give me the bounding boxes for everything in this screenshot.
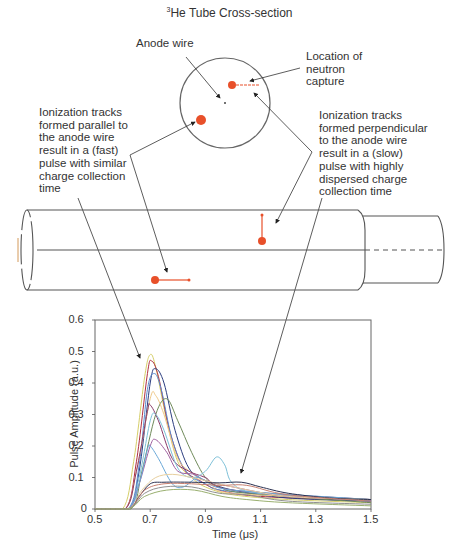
pulse-curves [95, 354, 371, 509]
tube [21, 210, 446, 290]
x-axis-label: Time (μs) [212, 528, 258, 540]
tube-tracks [151, 214, 266, 285]
y-tick-label: 0 [81, 502, 87, 514]
x-tick-label: 0.5 [87, 513, 102, 525]
parallel-arrow-tube [130, 155, 167, 272]
x-tick-label: 1.5 [363, 513, 378, 525]
cross-section [180, 58, 270, 148]
fast-pulse-arrow [78, 198, 140, 358]
perp-arrow-circle [254, 93, 312, 152]
perp-arrow-tube [276, 152, 312, 223]
x-tick-label: 0.9 [197, 513, 212, 525]
capture-arrow [250, 68, 300, 81]
y-axis-label: Pulse Amplitude (a.u.) [68, 354, 80, 474]
capture-blob-top [228, 81, 236, 89]
anode-wire-dot [224, 102, 226, 104]
slow-pulse-arrow [241, 198, 322, 473]
x-tick-label: 1.1 [253, 513, 268, 525]
y-tick-label: 0.6 [68, 313, 83, 325]
parallel-arrow-circle [130, 122, 195, 155]
x-tick-label: 1.3 [308, 513, 323, 525]
capture-blob-side [196, 115, 206, 125]
x-tick-label: 0.7 [142, 513, 157, 525]
